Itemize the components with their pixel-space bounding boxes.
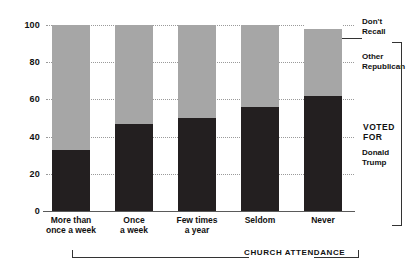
y-tick-20: 20 bbox=[30, 169, 40, 179]
x-label-more-than-once-a-week: More than once a week bbox=[36, 215, 106, 235]
x-label-line1: Never bbox=[311, 215, 335, 225]
segment-other-republican bbox=[52, 25, 90, 150]
legend-label-line2: Trump bbox=[362, 158, 386, 167]
segment-other-republican bbox=[304, 29, 342, 96]
x-label-line1: Few times bbox=[176, 215, 217, 225]
bar-column-once-a-week bbox=[115, 25, 153, 211]
segment-donald-trump bbox=[115, 124, 153, 211]
segment-donald-trump bbox=[52, 150, 90, 211]
y-tick-40: 40 bbox=[30, 132, 40, 142]
x-label-line2: once a week bbox=[46, 225, 96, 235]
legend: Don't Recall Other Republican Donald Tru… bbox=[356, 14, 406, 224]
legend-label-line2: Recall bbox=[362, 27, 386, 36]
dont-recall-leader-line bbox=[342, 38, 362, 39]
x-axis-line bbox=[43, 211, 355, 212]
x-axis-labels: More than once a week Once a week Few ti… bbox=[46, 215, 354, 241]
bar-column-seldom bbox=[241, 25, 279, 211]
legend-label-line1: Other bbox=[362, 52, 383, 61]
bar-group bbox=[46, 25, 354, 211]
x-label-line2: a week bbox=[120, 225, 148, 235]
segment-donald-trump bbox=[304, 96, 342, 211]
y-axis-labels: 100 80 60 40 20 0 bbox=[0, 25, 40, 211]
segment-donald-trump bbox=[178, 118, 216, 211]
x-label-line1: Once bbox=[123, 215, 144, 225]
legend-label-line1: Don't bbox=[362, 17, 382, 26]
x-label-never: Never bbox=[288, 215, 358, 225]
segment-other-republican bbox=[178, 25, 216, 118]
x-label-line1: More than bbox=[51, 215, 92, 225]
x-label-seldom: Seldom bbox=[225, 215, 295, 225]
bracket-left-segment bbox=[72, 250, 249, 258]
segment-other-republican bbox=[241, 25, 279, 107]
church-attendance-caption: CHURCH ATTENDANCE bbox=[244, 248, 345, 257]
x-label-line2: a year bbox=[185, 225, 210, 235]
legend-donald-trump: Donald Trump bbox=[362, 148, 389, 167]
stacked-bar-chart: 100 80 60 40 20 0 bbox=[0, 0, 406, 270]
church-attendance-bracket: CHURCH ATTENDANCE bbox=[46, 245, 354, 261]
y-tick-60: 60 bbox=[30, 94, 40, 104]
voted-for-line1: VOTED bbox=[363, 122, 395, 132]
y-tick-80: 80 bbox=[30, 57, 40, 67]
x-label-line1: Seldom bbox=[245, 215, 276, 225]
bar-column-never bbox=[304, 25, 342, 211]
segment-other-republican bbox=[115, 25, 153, 124]
legend-label-line1: Donald bbox=[362, 148, 389, 157]
segment-donald-trump bbox=[241, 107, 279, 211]
voted-for-label: VOTED FOR bbox=[363, 122, 395, 142]
x-label-once-a-week: Once a week bbox=[99, 215, 169, 235]
bar-column-few-times-a-year bbox=[178, 25, 216, 211]
legend-dont-recall: Don't Recall bbox=[362, 17, 386, 36]
bar-column-more-than-once-a-week bbox=[52, 25, 90, 211]
y-tick-100: 100 bbox=[24, 20, 40, 30]
x-label-few-times-a-year: Few times a year bbox=[162, 215, 232, 235]
voted-for-line2: FOR bbox=[363, 132, 382, 142]
plot-area bbox=[46, 25, 354, 211]
